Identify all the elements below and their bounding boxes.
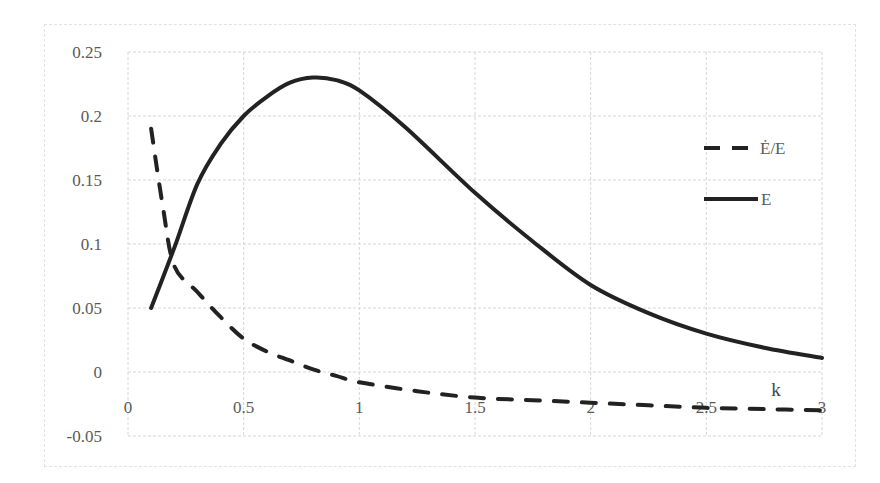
y-tick-label: 0 (94, 363, 103, 382)
x-axis-title: k (771, 379, 781, 400)
series-line-dashed (151, 129, 822, 411)
x-tick-label: 1.5 (464, 398, 485, 417)
y-tick-label: 0.05 (72, 299, 102, 318)
y-axis-ticks: 0.250.20.150.10.050-0.05 (67, 43, 102, 446)
y-tick-label: -0.05 (67, 427, 102, 446)
y-tick-label: 0.2 (81, 107, 102, 126)
y-tick-label: 0.15 (72, 171, 102, 190)
x-tick-label: 0 (124, 398, 133, 417)
x-tick-label: 1 (355, 398, 364, 417)
y-tick-label: 0.25 (72, 43, 102, 62)
legend-label-solid: E (761, 190, 771, 209)
legend-label-dashed: Ė/E (760, 139, 786, 158)
x-tick-label: 3 (818, 398, 827, 417)
legend-item-dashed: Ė/E (704, 139, 786, 158)
legend: Ė/E E (704, 139, 786, 209)
grid-lines (128, 52, 822, 436)
legend-item-solid: E (704, 190, 771, 209)
y-tick-label: 0.1 (81, 235, 102, 254)
series-group (151, 77, 822, 410)
x-tick-label: 0.5 (233, 398, 254, 417)
line-chart: 0.250.20.150.10.050-0.05 00.511.522.53 k… (0, 0, 880, 483)
series-line-solid (151, 77, 822, 357)
